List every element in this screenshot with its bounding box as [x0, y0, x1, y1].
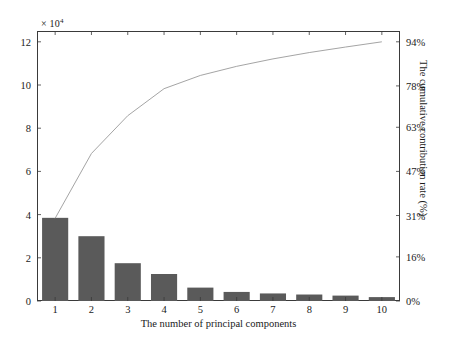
- y-tick-label-left-4: 4: [5, 209, 31, 220]
- y-tick-label-right-94pct: 94%: [406, 36, 438, 47]
- x-tick-label-7: 7: [270, 304, 275, 315]
- y-tick-label-left-8: 8: [5, 123, 31, 134]
- y-axis-left-labels: 024681012: [0, 0, 31, 352]
- x-tick-label-9: 9: [343, 304, 348, 315]
- x-axis-title: The number of principal components: [37, 318, 400, 329]
- y-tick-label-left-12: 12: [5, 36, 31, 47]
- x-tick-label-8: 8: [307, 304, 312, 315]
- x-tick-label-1: 1: [53, 304, 58, 315]
- x-tick-label-4: 4: [161, 304, 166, 315]
- x-tick-label-10: 10: [377, 304, 388, 315]
- y-tick-label-left-10: 10: [5, 80, 31, 91]
- bar-component-2: [78, 236, 104, 301]
- x-tick-label-5: 5: [198, 304, 203, 315]
- bar-component-3: [115, 263, 141, 301]
- figure-pareto-chart: × 104 024681012 0%16%31%47%63%78%94% 123…: [0, 0, 453, 352]
- y-tick-label-left-0: 0: [5, 296, 31, 307]
- bar-component-1: [42, 218, 68, 301]
- bar-component-4: [151, 274, 177, 301]
- y-tick-label-left-2: 2: [5, 252, 31, 263]
- cumulative-contribution-line: [55, 42, 382, 218]
- x-tick-label-3: 3: [125, 304, 130, 315]
- y-tick-label-right-0pct: 0%: [406, 296, 438, 307]
- x-tick-label-2: 2: [89, 304, 94, 315]
- y-axis-right-title: The cumulative contribution rate (%): [418, 60, 429, 260]
- x-tick-label-6: 6: [234, 304, 239, 315]
- y-tick-label-left-6: 6: [5, 166, 31, 177]
- chart-drawing-layer: [0, 0, 453, 352]
